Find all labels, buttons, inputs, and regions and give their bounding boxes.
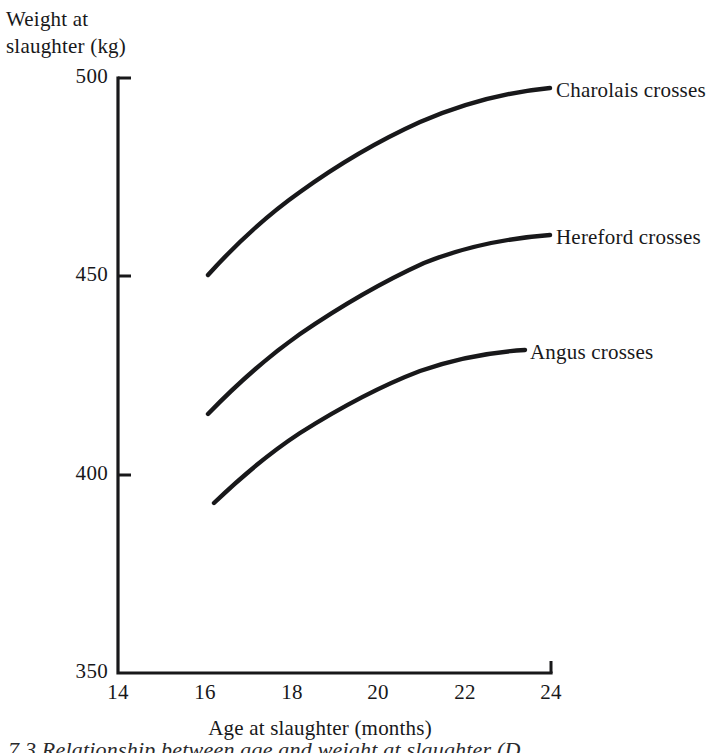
x-tick-label-20: 20 (353, 680, 403, 705)
figure-chart: Weight at slaughter (kg) 500 450 400 350… (0, 0, 715, 753)
figure-caption: 7.3 Relationship between age and weight … (8, 737, 715, 753)
y-tick-label-400: 400 (38, 461, 108, 486)
figure-caption-text: 7.3 Relationship between age and weight … (8, 737, 715, 753)
x-tick-label-16: 16 (180, 680, 230, 705)
plot-area (0, 0, 715, 753)
curve-angus (214, 350, 525, 503)
series-label-charolais: Charolais crosses (556, 78, 706, 103)
y-tick-marks (118, 78, 131, 475)
x-tick-label-18: 18 (267, 680, 317, 705)
y-tick-label-450: 450 (38, 262, 108, 287)
curve-charolais (208, 88, 550, 275)
x-tick-label-22: 22 (440, 680, 490, 705)
x-tick-label-14: 14 (93, 680, 143, 705)
x-tick-label-24: 24 (526, 680, 576, 705)
series-label-hereford: Hereford crosses (556, 225, 701, 250)
series-label-angus: Angus crosses (530, 340, 653, 365)
y-tick-label-500: 500 (38, 64, 108, 89)
